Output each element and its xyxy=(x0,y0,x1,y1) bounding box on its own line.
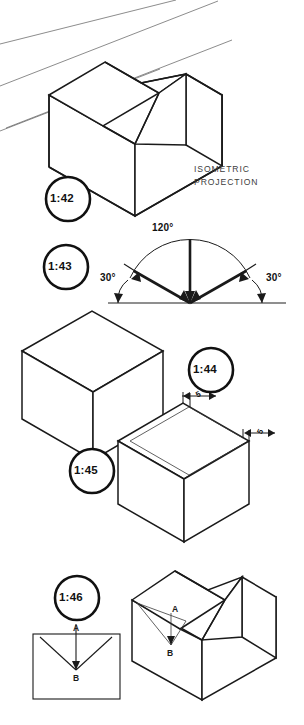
front-view-point-b-label: B xyxy=(73,673,79,683)
iso-view-point-a-label: A xyxy=(172,604,178,614)
drawing-page: 1:42 ISOMETRIC PROJECTION 1:43 120° 30° … xyxy=(0,0,304,725)
figure-tag-1-46: 1:46 xyxy=(59,591,83,603)
angle-label-right-30: 30° xyxy=(266,272,282,283)
angle-label-left-30: 30° xyxy=(100,272,116,283)
figure-1-42-caption-line1: ISOMETRIC xyxy=(194,163,250,175)
figure-1-46-iso-vblock xyxy=(132,571,276,700)
figure-1-42-caption-line2: PROJECTION xyxy=(194,176,258,188)
angle-label-120: 120° xyxy=(152,222,173,233)
figure-tag-1-42: 1:42 xyxy=(50,192,74,204)
figure-1-46-front-view xyxy=(33,624,120,699)
figure-tag-1-45: 1:45 xyxy=(74,464,98,476)
page-artwork xyxy=(0,0,304,725)
iso-view-point-b-label: B xyxy=(167,648,173,658)
figure-tag-1-43: 1:43 xyxy=(48,260,72,272)
figure-1-43-axes xyxy=(108,239,286,303)
front-view-point-a-label: A xyxy=(73,623,79,633)
figure-tag-1-44: 1:44 xyxy=(193,363,217,375)
